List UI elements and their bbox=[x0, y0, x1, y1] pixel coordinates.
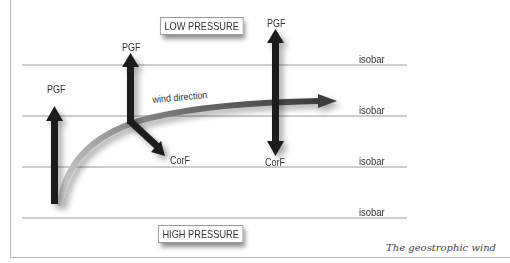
pgf-arrow-middle-icon bbox=[122, 53, 139, 124]
high-pressure-box: HIGH PRESSURE bbox=[158, 225, 243, 243]
corf-arrow-middle-icon bbox=[131, 122, 165, 156]
pgf-label-middle: PGF bbox=[122, 42, 141, 53]
corf-label-right: CorF bbox=[265, 157, 285, 168]
isobar-label-2: isobar bbox=[359, 104, 385, 116]
wind-arrowhead-icon bbox=[318, 94, 337, 108]
wind-direction-path bbox=[60, 94, 337, 203]
isobar-label-3: isobar bbox=[359, 155, 385, 167]
low-pressure-box: LOW PRESSURE bbox=[160, 17, 243, 35]
isobar-label-1: isobar bbox=[359, 53, 385, 65]
pgf-label-right: PGF bbox=[267, 18, 286, 29]
corf-arrow-right-icon bbox=[267, 100, 284, 156]
isobar-lines bbox=[22, 65, 407, 218]
pgf-label-left: PGF bbox=[47, 84, 66, 95]
geostrophic-wind-diagram bbox=[0, 0, 510, 263]
corf-label-middle: CorF bbox=[170, 155, 190, 166]
figure-caption: The geostrophic wind bbox=[386, 242, 496, 253]
isobar-label-4: isobar bbox=[359, 206, 385, 218]
